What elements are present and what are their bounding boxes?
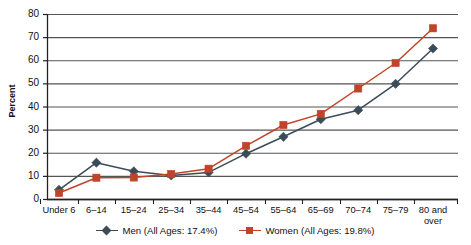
- line-chart: Percent 80706050403020100 Under 66–1415–…: [0, 0, 471, 245]
- legend-item: Men (All Ages: 17.4%): [96, 225, 217, 236]
- data-point-marker-square: [205, 165, 212, 172]
- data-point-marker-square: [392, 59, 399, 66]
- data-point-marker-square: [130, 174, 137, 181]
- y-axis-tick-label: 30: [13, 125, 39, 135]
- diamond-marker-icon: [96, 226, 118, 235]
- y-axis-tick-label: 70: [13, 32, 39, 42]
- data-point-marker-square: [242, 142, 249, 149]
- data-point-marker-square: [55, 189, 62, 196]
- y-axis-tick-label: 50: [13, 78, 39, 88]
- legend-item: Women (All Ages: 19.8%): [239, 225, 374, 236]
- data-point-marker-square: [429, 25, 436, 32]
- y-axis-tick-label: 60: [13, 55, 39, 65]
- y-axis-tick-label: 40: [13, 102, 39, 112]
- legend-label: Men (All Ages: 17.4%): [122, 225, 217, 236]
- data-point-marker-square: [168, 170, 175, 177]
- data-point-marker-square: [317, 110, 324, 117]
- y-axis-tick-label: 0: [13, 194, 39, 204]
- x-axis-tick-label: 80 and over: [410, 205, 456, 226]
- data-point-marker-square: [280, 121, 287, 128]
- y-axis-tick-label: 10: [13, 171, 39, 181]
- data-point-marker-square: [93, 174, 100, 181]
- data-point-marker-diamond: [241, 149, 250, 158]
- chart-legend: Men (All Ages: 17.4%)Women (All Ages: 19…: [0, 225, 471, 236]
- square-marker-icon: [239, 226, 261, 235]
- data-point-marker-square: [355, 85, 362, 92]
- y-axis-tick-label: 80: [13, 9, 39, 19]
- series-line-women: [59, 28, 433, 193]
- series-line-men: [59, 49, 433, 190]
- legend-label: Women (All Ages: 19.8%): [265, 225, 374, 236]
- data-point-marker-diamond: [279, 132, 288, 141]
- y-axis-tick-label: 20: [13, 148, 39, 158]
